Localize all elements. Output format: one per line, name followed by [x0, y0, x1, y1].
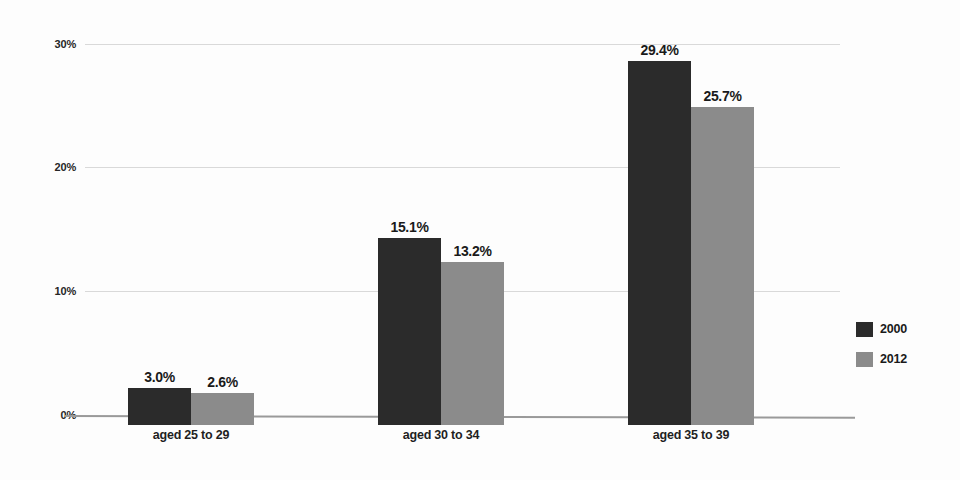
legend-item-2012[interactable]: 2012 — [856, 348, 907, 370]
bar-group0-series0: 3.0% — [128, 388, 191, 425]
legend-item-label: 2012 — [880, 352, 907, 366]
bar-value-label: 15.1% — [390, 219, 428, 235]
bar-value-label: 2.6% — [207, 374, 238, 390]
y-axis-tick-label: 20% — [36, 161, 76, 173]
bar-value-label: 25.7% — [703, 88, 741, 104]
legend-item-label: 2000 — [880, 322, 907, 336]
y-axis-tick-label: 30% — [36, 38, 76, 50]
bar-group0-series1: 2.6% — [191, 393, 254, 425]
legend-item-2000[interactable]: 2000 — [856, 318, 907, 340]
bar-group1-series0: 15.1% — [378, 238, 441, 425]
y-axis-tick-label: 10% — [36, 285, 76, 297]
gridline-30 — [85, 44, 840, 45]
legend: 2000 2012 — [856, 318, 907, 378]
bar-value-label: 13.2% — [453, 243, 491, 259]
bar-group2-series0: 29.4% — [628, 61, 691, 425]
x-axis-label-group2: aged 35 to 39 — [653, 428, 730, 442]
x-axis-label-group0: aged 25 to 29 — [153, 428, 230, 442]
bar-group1-series1: 13.2% — [441, 262, 504, 425]
bar-group2-series1: 25.7% — [691, 107, 754, 425]
legend-swatch-icon — [856, 322, 873, 337]
legend-swatch-icon — [856, 352, 873, 367]
bar-value-label: 3.0% — [144, 369, 175, 385]
x-axis-label-group1: aged 30 to 34 — [403, 428, 480, 442]
bar-chart: 30% 20% 10% 0% 3.0% 2.6% 15.1% 13.2% 29.… — [0, 0, 960, 480]
bar-value-label: 29.4% — [640, 42, 678, 58]
plot-area: 3.0% 2.6% 15.1% 13.2% 29.4% 25.7% — [85, 30, 840, 425]
